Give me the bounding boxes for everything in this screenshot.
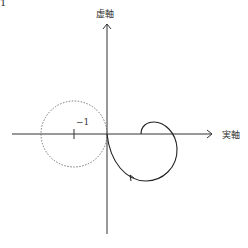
nyquist-diagram	[0, 0, 248, 248]
nyquist-curve	[107, 122, 177, 181]
real-axis-label: 実軸	[222, 128, 240, 141]
imaginary-axis-label: 虚軸	[96, 7, 114, 20]
minus-one-label: −1	[76, 117, 89, 127]
